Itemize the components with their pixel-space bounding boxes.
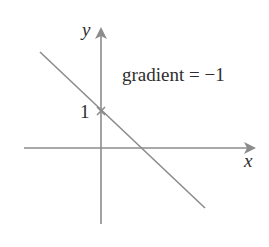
y-axis-label: y [80, 19, 91, 40]
line-graph: y x 1 gradient = −1 [0, 0, 269, 247]
y-intercept-label: 1 [80, 101, 90, 122]
y-axis [95, 27, 107, 224]
x-axis [24, 142, 256, 154]
gradient-annotation: gradient = −1 [122, 64, 225, 85]
x-axis-label: x [243, 150, 253, 171]
